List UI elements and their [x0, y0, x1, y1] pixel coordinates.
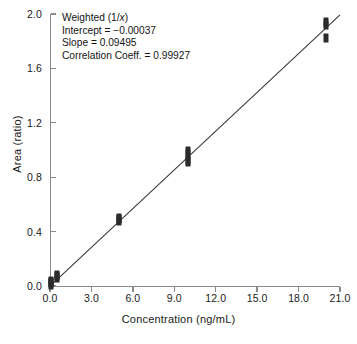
y-axis-title: Area (ratio): [11, 74, 23, 214]
annotation-weighting-line: Weighted (1/x): [62, 12, 190, 25]
data-point: [117, 214, 122, 223]
data-point: [49, 276, 54, 285]
statistics-annotation: Weighted (1/x) Intercept = −0.00037 Slop…: [62, 12, 190, 62]
x-tick-label-0: 0.0: [43, 292, 58, 304]
data-point: [324, 18, 329, 27]
y-tick-label-1: 0.4: [0, 226, 42, 238]
data-point: [324, 34, 329, 43]
annotation-weighting-prefix: Weighted (1/: [62, 12, 120, 23]
data-point: [54, 271, 59, 280]
x-tick-label-7: 21.0: [330, 292, 351, 304]
annotation-slope: Slope = 0.09495: [62, 37, 190, 50]
x-tick-label-1: 3.0: [84, 292, 99, 304]
y-tick-label-5: 2.0: [0, 8, 42, 20]
x-axis-line: [50, 286, 340, 287]
calibration-curve-figure: 0.00.40.81.21.62.0 0.03.06.09.012.015.01…: [0, 0, 357, 344]
y-tick-label-4: 1.6: [0, 62, 42, 74]
x-tick-label-4: 12.0: [205, 292, 226, 304]
x-tick-label-3: 9.0: [167, 292, 182, 304]
x-tick-label-6: 18.0: [288, 292, 309, 304]
annotation-intercept: Intercept = −0.00037: [62, 25, 190, 38]
annotation-weighting-suffix: ): [125, 12, 128, 23]
data-point: [186, 147, 191, 156]
x-axis-tick-labels: 0.03.06.09.012.015.018.021.0: [50, 292, 340, 308]
annotation-correlation: Correlation Coeff. = 0.99927: [62, 50, 190, 63]
x-tick-label-2: 6.0: [125, 292, 140, 304]
x-tick-label-5: 15.0: [247, 292, 268, 304]
y-tick-label-0: 0.0: [0, 280, 42, 292]
x-axis-title: Concentration (ng/mL): [0, 313, 357, 325]
